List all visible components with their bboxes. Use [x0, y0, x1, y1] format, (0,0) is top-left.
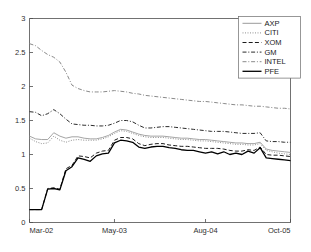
x-tick-label: Oct-05	[268, 226, 291, 235]
chart-legend: AXPCITIXOMGMINTELPFE	[239, 17, 301, 79]
legend-label-gm: GM	[265, 48, 277, 57]
y-tick-label: 1.5	[15, 116, 25, 125]
x-tick-label: May-03	[102, 226, 127, 235]
x-tick-label: Mar-02	[30, 226, 54, 235]
series-line-xom	[30, 138, 291, 210]
legend-label-citi: CITI	[265, 28, 279, 37]
x-axis-ticks: Mar-02May-03Aug-04Oct-05	[30, 219, 291, 235]
y-tick-label: 0	[21, 218, 25, 227]
y-axis-ticks: 00.511.522.53	[15, 14, 33, 227]
legend-label-intel: INTEL	[265, 57, 286, 66]
legend-label-pfe: PFE	[265, 67, 280, 76]
legend-label-axp: AXP	[265, 19, 280, 28]
line-chart: 00.511.522.53 Mar-02May-03Aug-04Oct-05 A…	[0, 0, 311, 252]
y-tick-label: 1	[21, 150, 25, 159]
y-tick-label: 3	[21, 14, 25, 23]
legend-label-xom: XOM	[265, 38, 282, 47]
series-line-pfe	[30, 140, 291, 209]
y-tick-label: 0.5	[15, 184, 25, 193]
y-tick-label: 2.5	[15, 48, 25, 57]
chart-figure: 00.511.522.53 Mar-02May-03Aug-04Oct-05 A…	[0, 0, 311, 252]
y-tick-label: 2	[21, 82, 25, 91]
x-tick-label: Aug-04	[193, 226, 217, 235]
series-line-citi	[30, 131, 291, 155]
